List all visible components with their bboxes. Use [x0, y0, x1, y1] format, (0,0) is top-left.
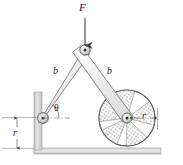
force-label: F — [79, 2, 86, 13]
pivot-height-dimension — [2, 118, 38, 149]
link-left-label: b — [53, 66, 58, 76]
mechanism-diagram: F b b θ r r — [0, 0, 183, 165]
apex-pin-joint — [80, 45, 90, 55]
link-right-label: b — [107, 66, 112, 76]
angle-theta-label: θ — [54, 103, 59, 113]
wheel-radius-label: r — [142, 111, 146, 121]
diagram-canvas — [0, 0, 183, 165]
ground-support — [34, 148, 161, 154]
pivot-height-label: r — [13, 128, 17, 138]
